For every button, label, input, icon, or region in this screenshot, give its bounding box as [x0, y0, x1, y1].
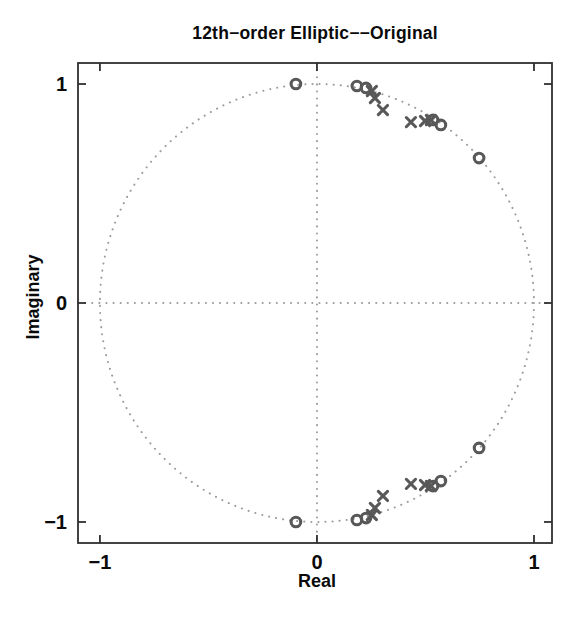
zero-marker: [291, 517, 301, 527]
zero-marker: [474, 153, 484, 163]
pole-marker: [378, 491, 387, 500]
zero-marker: [474, 443, 484, 453]
y-axis-label: Imaginary: [23, 254, 44, 339]
chart-title: 12th−order Elliptic−−Original: [192, 23, 438, 44]
x-axis-label: Real: [298, 571, 336, 592]
zero-marker: [361, 513, 371, 523]
x-tick-label: 1: [528, 551, 539, 573]
zero-marker: [291, 79, 301, 89]
figure: 12th−order Elliptic−−Original −101−101 R…: [0, 0, 580, 619]
plot-svg: −101−101: [0, 0, 580, 619]
zero-marker: [436, 476, 446, 486]
y-tick-label: 0: [56, 292, 67, 314]
y-tick-label: −1: [44, 511, 67, 533]
pole-marker: [378, 105, 387, 114]
zero-marker: [361, 83, 371, 93]
y-tick-label: 1: [56, 73, 67, 95]
pole-marker: [406, 118, 415, 127]
zero-marker: [436, 120, 446, 130]
pole-marker: [406, 479, 415, 488]
x-tick-label: −1: [89, 551, 112, 573]
